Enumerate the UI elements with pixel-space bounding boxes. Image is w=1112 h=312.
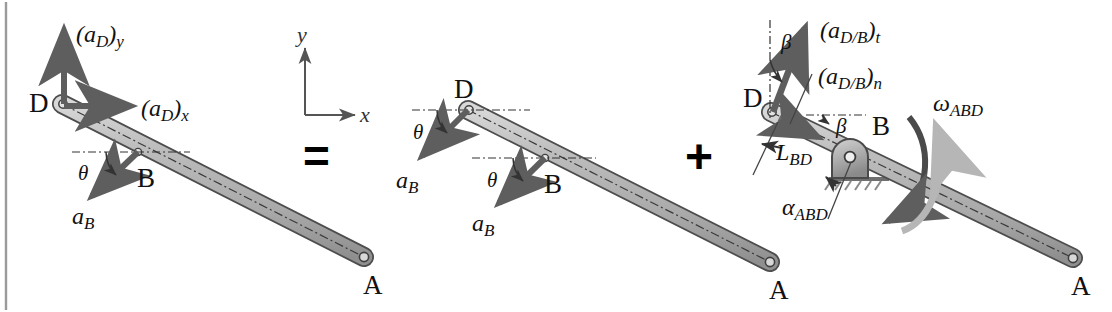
point-b-label: B: [872, 111, 890, 141]
diagram-svg: D B A (aD)y (aD)x aB θ y x =: [0, 0, 1112, 312]
point-a-label: A: [1071, 271, 1091, 301]
angular-acceleration-arc: [902, 117, 925, 214]
angle-beta-arc-rod: [822, 115, 829, 124]
angular-velocity-arrowhead: [936, 126, 941, 140]
point-b-label: B: [137, 163, 155, 193]
point-b-label: B: [544, 169, 562, 199]
vector-aDB-tangential-label: (aD/B)t: [820, 17, 881, 47]
svg-text:aB: aB: [396, 167, 419, 197]
leader-line-L-BD: [753, 122, 778, 175]
svg-text:αABD: αABD: [782, 194, 828, 224]
panel-right: D B A (aD/B)t (aD/B)n β β LBD ωABD: [743, 17, 1091, 301]
angle-theta-label-d: θ: [413, 120, 423, 144]
svg-text:(aD/B)t: (aD/B)t: [820, 17, 881, 47]
vector-aD-x-label: (aD)x: [141, 95, 189, 125]
vector-aDB-normal-label: (aD/B)n: [818, 63, 882, 93]
svg-text:aB: aB: [472, 210, 495, 240]
vector-aB-at-d-label: aB: [396, 167, 419, 197]
svg-text:ωABD: ωABD: [933, 90, 984, 120]
figure-canvas: D B A (aD)y (aD)x aB θ y x =: [0, 0, 1112, 312]
svg-text:LBD: LBD: [775, 139, 813, 169]
angle-theta-label-b: θ: [78, 161, 88, 185]
point-d-label: D: [454, 74, 474, 104]
coordinate-axes: y x: [295, 22, 370, 127]
operator-equals: =: [303, 130, 330, 182]
point-a-label: A: [769, 275, 789, 305]
point-d-label: D: [743, 83, 763, 113]
axis-y-label: y: [295, 22, 307, 47]
axis-x-label: x: [359, 102, 370, 127]
panel-left: D B A (aD)y (aD)x aB θ: [29, 21, 383, 300]
vector-aB-at-d-arrow: [422, 110, 468, 156]
angular-acceleration-alpha-ABD-label: αABD: [782, 194, 828, 224]
point-d-label: D: [29, 88, 49, 118]
svg-text:(aD)y: (aD)y: [76, 21, 124, 51]
svg-text:(aD)x: (aD)x: [141, 95, 189, 125]
svg-text:aB: aB: [72, 203, 95, 233]
angle-beta-label-rod: β: [835, 114, 847, 138]
rod-abd-middle: [465, 106, 775, 267]
vector-aB-at-b-label: aB: [472, 210, 495, 240]
pin-support-at-b: [832, 139, 868, 178]
angle-theta-label-b: θ: [487, 168, 497, 192]
svg-text:(aD/B)n: (aD/B)n: [818, 63, 882, 93]
angle-beta-arc-top: [770, 60, 782, 82]
vector-aD-y-label: (aD)y: [76, 21, 124, 51]
angle-beta-label-top: β: [780, 30, 792, 54]
pin-hole-a: [1068, 253, 1077, 262]
vector-aB-label: aB: [72, 203, 95, 233]
angular-acceleration-arrowhead: [888, 214, 902, 221]
pin-hole-b: [845, 152, 856, 163]
angular-velocity-omega-ABD-label: ωABD: [933, 90, 984, 120]
point-a-label: A: [363, 270, 383, 300]
pin-hole-a: [359, 252, 368, 261]
operator-plus: +: [685, 130, 713, 183]
pin-hole-a: [765, 257, 774, 266]
panel-middle: D B A aB aB θ θ: [396, 74, 789, 305]
dimension-L-BD-label: LBD: [775, 139, 813, 169]
